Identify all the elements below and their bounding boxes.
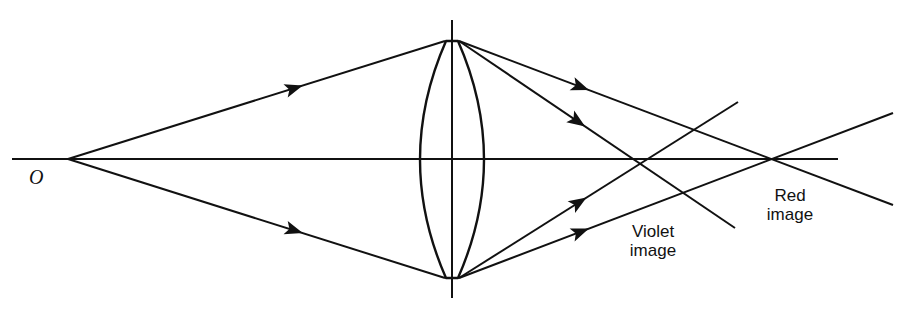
light-ray-violet-upper: [459, 41, 735, 228]
chromatic-aberration-diagram: O Violet image Red image: [0, 0, 899, 311]
red-label-line1: Red: [760, 186, 820, 205]
violet-label-line2: image: [618, 241, 688, 260]
arrow-head-icon: [566, 111, 585, 127]
red-image-label: Red image: [760, 186, 820, 224]
light-ray-violet-lower: [459, 102, 738, 278]
violet-image-label: Violet image: [618, 222, 688, 260]
light-ray-red-upper: [459, 41, 893, 205]
diagram-canvas: [0, 0, 899, 311]
red-label-line2: image: [760, 205, 820, 224]
violet-label-line1: Violet: [618, 222, 688, 241]
light-ray-incident-upper: [68, 41, 445, 159]
arrow-head-icon: [568, 198, 587, 214]
object-label: O: [29, 166, 43, 189]
light-ray-incident-lower: [68, 159, 445, 278]
